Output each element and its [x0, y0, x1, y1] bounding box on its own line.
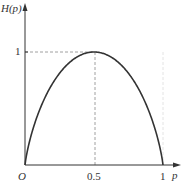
x-axis-label: p: [172, 170, 178, 181]
y-axis-arrow-icon: [23, 3, 28, 11]
y-axis-label: H(p): [1, 3, 22, 14]
axes: [23, 3, 182, 168]
x-tick-label-half: 0.5: [87, 171, 101, 182]
entropy-chart: [0, 0, 189, 188]
entropy-curve: [25, 52, 163, 165]
y-tick-label-1: 1: [15, 46, 21, 57]
dashed-guides: [25, 52, 163, 165]
x-tick-label-1: 1: [160, 171, 166, 182]
origin-label: O: [18, 171, 26, 182]
x-axis-arrow-icon: [173, 163, 181, 168]
